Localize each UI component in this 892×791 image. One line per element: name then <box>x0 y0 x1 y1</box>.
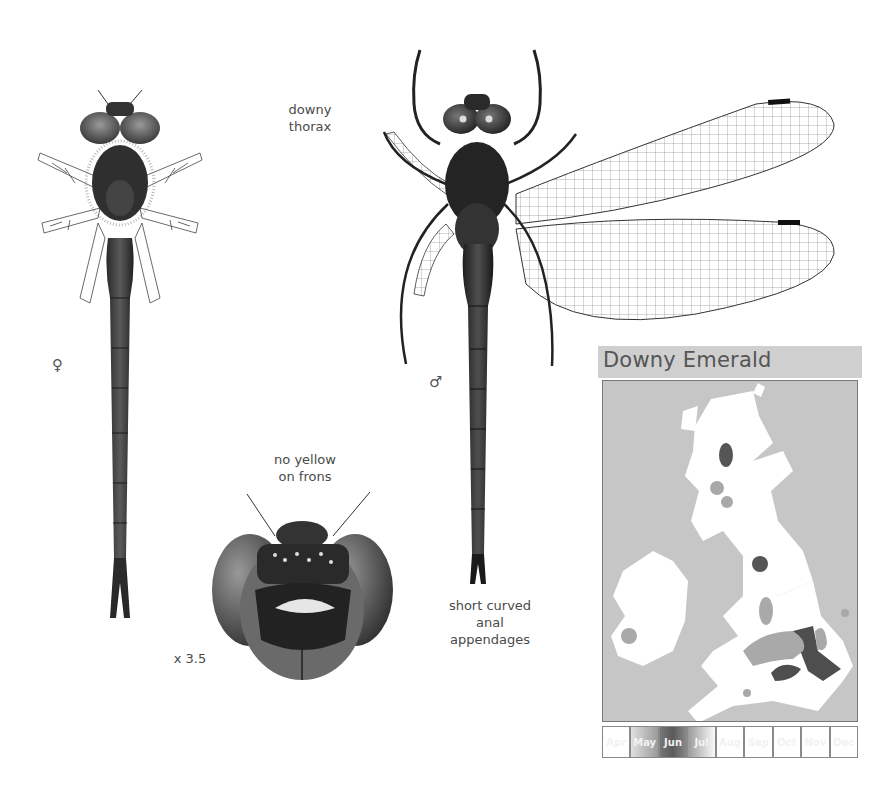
map-title: Downy Emerald <box>603 348 772 372</box>
flight-period-calendar: Apr May Jun Jul Aug Sep Oct Nov Dec <box>602 726 858 758</box>
month-aug: Aug <box>717 727 745 757</box>
label-downy-thorax: downy thorax <box>270 101 350 135</box>
month-sep: Sep <box>745 727 773 757</box>
distribution-map-panel: Downy Emerald Apr <box>598 346 862 760</box>
month-may: May <box>631 727 659 757</box>
month-apr: Apr <box>603 727 631 757</box>
uk-ireland-map <box>603 381 858 722</box>
male-symbol: ♂ <box>429 373 442 391</box>
month-jul: Jul <box>688 727 716 757</box>
label-anal-appendages: short curved anal appendages <box>435 597 545 648</box>
month-nov: Nov <box>802 727 830 757</box>
distribution-map <box>602 380 858 722</box>
map-title-bar: Downy Emerald <box>598 346 862 378</box>
label-magnification: x 3.5 <box>165 650 215 667</box>
head-frontal-illustration <box>205 490 400 690</box>
month-oct: Oct <box>774 727 802 757</box>
label-no-yellow-on-frons: no yellow on frons <box>260 451 350 485</box>
month-jun: Jun <box>660 727 688 757</box>
month-dec: Dec <box>831 727 857 757</box>
female-symbol: ♀ <box>52 356 63 374</box>
